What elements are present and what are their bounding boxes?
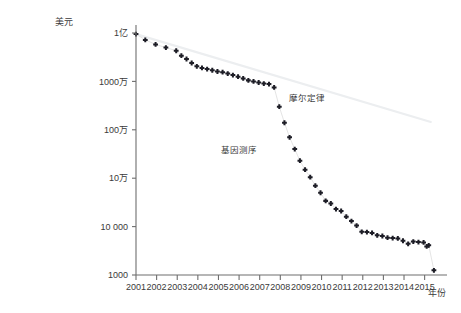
x-tick-label: 2009 bbox=[291, 282, 311, 292]
sequencing-connector-group bbox=[136, 34, 434, 270]
data-point bbox=[230, 73, 235, 78]
data-point bbox=[261, 81, 266, 86]
data-point bbox=[292, 147, 297, 152]
axes-group: 1亿1000万100万10万10 00010002001200220032004… bbox=[99, 25, 447, 292]
y-axis-label: 美元 bbox=[55, 16, 73, 27]
data-point bbox=[365, 230, 370, 235]
data-point bbox=[246, 78, 251, 83]
data-point bbox=[210, 68, 215, 73]
data-point bbox=[370, 231, 375, 236]
data-point bbox=[251, 79, 256, 84]
data-point bbox=[416, 240, 421, 245]
data-point bbox=[200, 66, 205, 71]
y-tick-label: 1000 bbox=[108, 270, 128, 280]
data-point bbox=[215, 69, 220, 74]
x-tick-label: 2012 bbox=[353, 282, 373, 292]
moore-law-line-group bbox=[136, 34, 431, 122]
data-point bbox=[205, 67, 210, 72]
data-point bbox=[241, 76, 246, 81]
x-tick-label: 2008 bbox=[270, 282, 290, 292]
data-point bbox=[277, 104, 282, 109]
x-axis-label: 年份 bbox=[428, 287, 446, 298]
y-tick-label: 10万 bbox=[109, 173, 128, 183]
data-point bbox=[390, 236, 395, 241]
data-point bbox=[380, 234, 385, 239]
chart-canvas: 1亿1000万100万10万10 00010002001200220032004… bbox=[0, 0, 461, 313]
data-point bbox=[272, 85, 277, 90]
x-tick-label: 2010 bbox=[312, 282, 332, 292]
data-point bbox=[401, 238, 406, 243]
y-tick-label: 1亿 bbox=[114, 27, 128, 38]
y-tick-label: 10 000 bbox=[100, 222, 128, 232]
data-point bbox=[313, 183, 318, 188]
moore-law-line bbox=[136, 34, 431, 122]
data-point bbox=[375, 233, 380, 238]
data-point bbox=[282, 120, 287, 125]
data-point bbox=[406, 241, 411, 246]
data-point bbox=[163, 45, 168, 50]
sequencing-points-group bbox=[134, 32, 437, 273]
sequencing-series-label: 基因测序 bbox=[221, 145, 257, 155]
x-tick-label: 2004 bbox=[188, 282, 208, 292]
data-point bbox=[220, 70, 225, 75]
data-point bbox=[323, 198, 328, 203]
x-tick-label: 2006 bbox=[229, 282, 249, 292]
y-tick-label: 100万 bbox=[104, 125, 128, 135]
x-tick-label: 2013 bbox=[373, 282, 393, 292]
x-tick-label: 2014 bbox=[394, 282, 414, 292]
data-point bbox=[225, 71, 230, 76]
data-point bbox=[308, 175, 313, 180]
x-tick-label: 2003 bbox=[167, 282, 187, 292]
data-point bbox=[287, 135, 292, 140]
x-tick-label: 2011 bbox=[332, 282, 351, 292]
data-point bbox=[318, 190, 323, 195]
x-tick-label: 2001 bbox=[126, 282, 146, 292]
data-point bbox=[411, 239, 416, 244]
cost-per-genome-chart: 1亿1000万100万10万10 00010002001200220032004… bbox=[0, 0, 461, 313]
y-tick-label: 1000万 bbox=[99, 77, 128, 87]
x-tick-label: 2005 bbox=[208, 282, 228, 292]
data-point bbox=[236, 74, 241, 79]
data-point bbox=[256, 80, 261, 85]
data-point bbox=[194, 64, 199, 69]
data-point bbox=[303, 167, 308, 172]
x-tick-label: 2002 bbox=[147, 282, 167, 292]
moore-law-series-label: 摩尔定律 bbox=[289, 93, 325, 103]
data-point bbox=[432, 268, 437, 273]
data-point bbox=[395, 236, 400, 241]
data-point bbox=[298, 158, 303, 163]
x-tick-label: 2007 bbox=[250, 282, 270, 292]
data-point bbox=[385, 235, 390, 240]
sequencing-connector-line bbox=[136, 34, 434, 270]
data-point bbox=[153, 42, 158, 47]
data-point bbox=[267, 82, 272, 87]
